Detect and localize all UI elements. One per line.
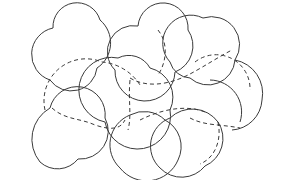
solid-shape-right-upper-arc (210, 80, 242, 122)
dashed-outlines (44, 30, 250, 164)
dashed-shape-mid-center-dashed-vertical (128, 80, 130, 130)
solid-shape-top-right (163, 15, 240, 85)
dashed-shape-right-dashed-lower (190, 118, 240, 128)
diagram-canvas (0, 0, 283, 180)
solid-shape-middle-center (79, 55, 173, 149)
solid-shape-bottom-right (151, 109, 223, 177)
dashed-shape-bottom-center-dashed (140, 108, 205, 120)
dashed-shape-left-mid-dashed-lower (52, 108, 125, 128)
overlapping-circles-diagram (0, 0, 283, 180)
dashed-shape-left-mid-dashed (44, 59, 140, 110)
solid-shape-top-left (32, 3, 111, 91)
solid-outlines (32, 3, 263, 180)
solid-shape-bottom-left (32, 87, 108, 169)
